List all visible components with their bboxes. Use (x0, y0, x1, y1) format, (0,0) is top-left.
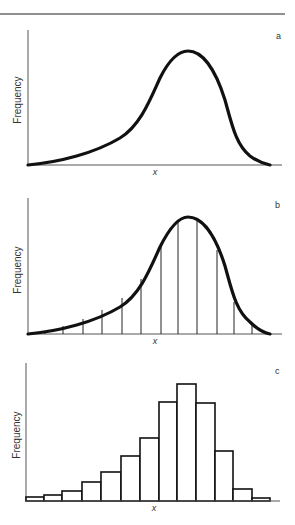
bar (101, 472, 121, 501)
x-axis-label: x (152, 167, 158, 177)
bar (159, 402, 177, 501)
distribution-curve (28, 51, 270, 165)
y-axis-label: Frequency (11, 411, 22, 458)
histogram-bars (26, 384, 270, 501)
bar (233, 489, 252, 501)
bar (82, 482, 101, 501)
y-axis-label: Frequency (12, 246, 23, 293)
figure-canvas: Frequency x a Frequency x b (0, 0, 295, 525)
class-divisions (45, 221, 252, 334)
bar (121, 456, 140, 501)
bar (177, 384, 196, 501)
bar (215, 451, 233, 501)
bar (62, 491, 82, 501)
panel-label: c (275, 366, 280, 376)
bar (196, 403, 215, 501)
panel-label: a (276, 31, 281, 41)
panel-c: Frequency x c (11, 363, 280, 513)
y-axis-label: Frequency (12, 76, 23, 123)
bar (140, 438, 159, 501)
bar (44, 495, 62, 501)
panel-label: b (275, 200, 280, 210)
bar (26, 497, 44, 501)
x-axis-label: x (152, 336, 158, 346)
panel-a: Frequency x a (12, 30, 282, 177)
panel-b: Frequency x b (12, 198, 282, 346)
x-axis-label: x (151, 503, 157, 513)
